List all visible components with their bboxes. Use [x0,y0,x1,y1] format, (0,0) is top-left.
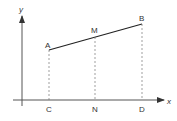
label-d: D [139,105,145,114]
y-axis-label: y [18,5,24,14]
label-a: A [45,41,51,50]
label-n: N [92,105,98,114]
label-b: B [139,14,144,23]
x-axis-label: x [166,97,172,106]
label-c: C [46,105,52,114]
diagram-canvas: y x A M B C N D [0,0,177,121]
label-m: M [91,26,98,35]
